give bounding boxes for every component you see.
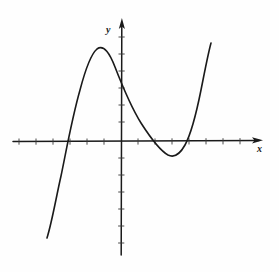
graph-figure: y x <box>0 0 279 272</box>
y-axis-line <box>121 23 122 255</box>
y-axis-group <box>119 18 125 255</box>
y-axis-label: y <box>106 25 110 35</box>
x-axis-group <box>13 137 263 144</box>
cubic-function-plot <box>0 0 279 272</box>
x-axis-line <box>13 140 259 141</box>
x-axis-label: x <box>257 144 262 154</box>
